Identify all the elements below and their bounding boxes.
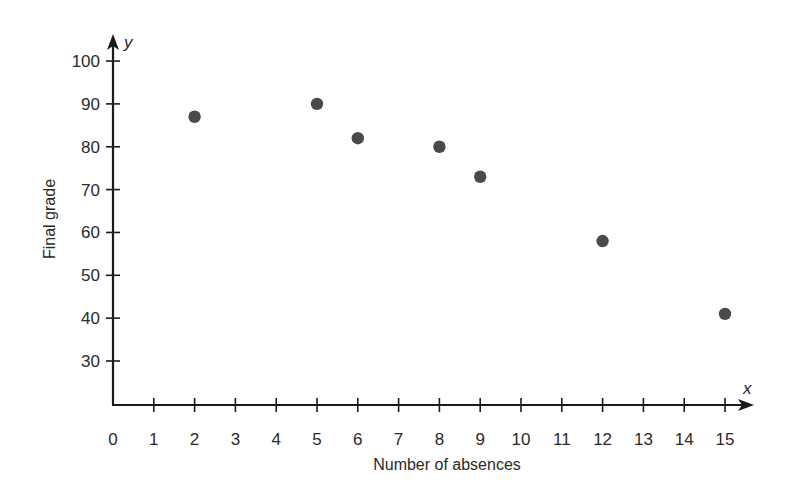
x-tick-label: 3: [231, 430, 240, 449]
data-point: [311, 98, 323, 110]
data-point: [188, 111, 200, 123]
data-point: [474, 171, 486, 183]
data-point: [433, 141, 445, 153]
x-tick-label: 6: [353, 430, 362, 449]
x-tick-label: 2: [190, 430, 199, 449]
x-axis-title: Number of absences: [373, 456, 521, 473]
x-tick-label: 14: [675, 430, 694, 449]
data-point: [596, 235, 608, 247]
y-tick-label: 60: [81, 223, 100, 242]
x-tick-label: 8: [435, 430, 444, 449]
x-tick-label: 9: [475, 430, 484, 449]
x-axis-variable: x: [742, 379, 752, 398]
y-tick-label: 30: [81, 352, 100, 371]
x-tick-label: 1: [149, 430, 158, 449]
data-point: [352, 132, 364, 144]
y-tick-label: 100: [72, 52, 100, 71]
y-tick-label: 80: [81, 138, 100, 157]
y-axis-variable: y: [123, 33, 134, 52]
scatter-chart: 30405060708090100 0123456789101112131415…: [0, 0, 790, 494]
x-tick-label: 0: [108, 430, 117, 449]
x-tick-label: 4: [271, 430, 280, 449]
data-point: [719, 308, 731, 320]
x-tick-label: 10: [512, 430, 531, 449]
y-tick-label: 40: [81, 309, 100, 328]
y-tick-label: 90: [81, 95, 100, 114]
y-tick-label: 70: [81, 181, 100, 200]
x-tick-label: 11: [553, 430, 571, 449]
x-tick-label: 15: [716, 430, 735, 449]
x-tick-label: 5: [312, 430, 321, 449]
data-points: [188, 98, 731, 320]
y-axis-title: Final grade: [41, 179, 58, 259]
x-tick-label: 7: [394, 430, 403, 449]
x-tick-label: 13: [634, 430, 653, 449]
y-tick-label: 50: [81, 266, 100, 285]
x-tick-label: 12: [593, 430, 612, 449]
